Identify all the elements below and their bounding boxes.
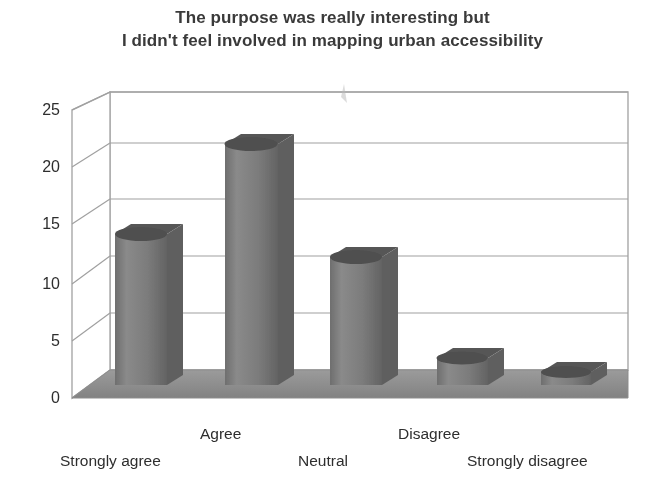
- bar-neutral: [330, 247, 398, 385]
- y-tick-5: 5: [10, 332, 60, 350]
- x-label-disagree: Disagree: [398, 425, 460, 443]
- bar-agree: [225, 134, 295, 385]
- x-label-strongly-disagree: Strongly disagree: [467, 452, 588, 470]
- bar-strongly-agree: [115, 224, 183, 385]
- left-wall: [72, 92, 110, 398]
- y-tick-10: 10: [10, 275, 60, 293]
- y-tick-0: 0: [10, 389, 60, 407]
- x-label-strongly-agree: Strongly agree: [60, 452, 161, 470]
- y-tick-20: 20: [10, 158, 60, 176]
- y-tick-15: 15: [10, 215, 60, 233]
- bar-chart: The purpose was really interesting but I…: [0, 0, 665, 492]
- bar-disagree: [437, 348, 505, 385]
- plot-area: [0, 0, 665, 492]
- y-tick-25: 25: [10, 101, 60, 119]
- x-label-agree: Agree: [200, 425, 241, 443]
- x-label-neutral: Neutral: [298, 452, 348, 470]
